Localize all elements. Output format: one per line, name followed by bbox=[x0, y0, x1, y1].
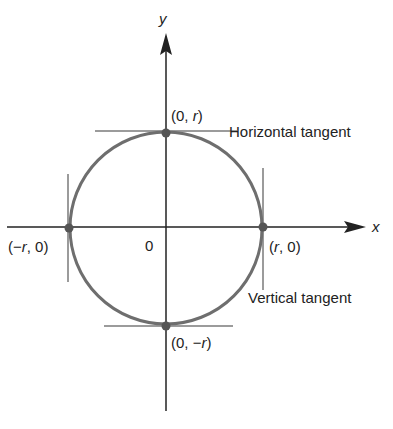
horizontal-tangent-label: Horizontal tangent bbox=[229, 123, 352, 140]
label-left: (−r, 0) bbox=[8, 238, 48, 255]
point-left bbox=[65, 224, 74, 233]
circle-diagram: y x 0 (0, r) (0, −r) (−r, 0) (r, 0) Hori… bbox=[0, 0, 393, 429]
point-right bbox=[259, 223, 268, 232]
origin-label: 0 bbox=[145, 237, 153, 254]
label-bottom: (0, −r) bbox=[171, 334, 211, 351]
vertical-tangent-label: Vertical tangent bbox=[248, 289, 352, 306]
y-axis-label: y bbox=[158, 10, 168, 27]
x-axis-label: x bbox=[371, 218, 380, 235]
label-right: (r, 0) bbox=[269, 238, 301, 255]
point-bottom bbox=[162, 322, 171, 331]
label-top: (0, r) bbox=[171, 107, 203, 124]
point-top bbox=[162, 129, 171, 138]
